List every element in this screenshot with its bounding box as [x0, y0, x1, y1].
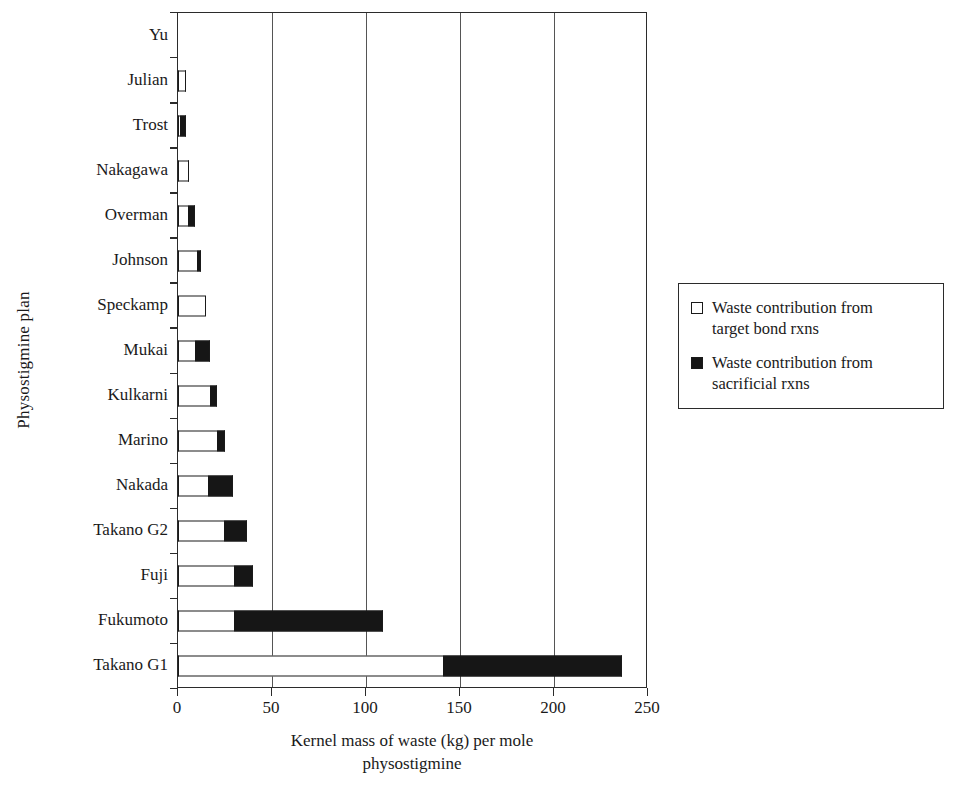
legend-label-line-2: sacrificial rxns — [712, 373, 873, 394]
stacked-bar — [178, 160, 189, 181]
y-tick-label: Marino — [0, 430, 168, 450]
bar-row — [178, 103, 646, 148]
x-tick-label: 0 — [147, 698, 207, 718]
plot-area — [177, 12, 647, 688]
x-axis-title: Kernel mass of waste (kg) per mole physo… — [177, 730, 647, 776]
bar-segment-target-bond — [178, 205, 188, 226]
legend-item: Waste contribution fromsacrificial rxns — [691, 352, 933, 394]
legend-label: Waste contribution fromtarget bond rxns — [712, 297, 873, 339]
stacked-bar — [178, 386, 217, 407]
y-tick-label: Trost — [0, 115, 168, 135]
y-tick-label: Julian — [0, 70, 168, 90]
x-tick-label: 50 — [241, 698, 301, 718]
y-tick-label: Speckamp — [0, 295, 168, 315]
bar-segment-target-bond — [178, 295, 206, 316]
x-tick-label: 100 — [335, 698, 395, 718]
legend-swatch-hollow-icon — [691, 302, 703, 314]
bar-row — [178, 419, 646, 464]
y-tick-label: Mukai — [0, 340, 168, 360]
x-tick-mark — [553, 688, 554, 696]
chart-figure: Physostigmine plan YuJulianTrostNakagawa… — [0, 0, 960, 799]
stacked-bar — [178, 70, 186, 91]
stacked-bar — [178, 340, 210, 361]
x-tick-label: 150 — [429, 698, 489, 718]
x-tick-mark — [271, 688, 272, 696]
stacked-bar — [178, 115, 186, 136]
bar-segment-target-bond — [178, 566, 234, 587]
x-axis-title-line-1: Kernel mass of waste (kg) per mole — [177, 730, 647, 753]
bar-segment-sacrificial — [197, 250, 201, 271]
bar-segment-target-bond — [178, 431, 217, 452]
bar-segment-sacrificial — [188, 160, 189, 181]
legend-label-line-1: Waste contribution from — [712, 297, 873, 318]
y-tick-label: Fukumoto — [0, 610, 168, 630]
bar-segment-target-bond — [178, 656, 443, 677]
stacked-bar — [178, 611, 383, 632]
x-tick-mark — [365, 688, 366, 696]
bar-row — [178, 148, 646, 193]
legend-swatch-filled-icon — [691, 357, 703, 369]
stacked-bar — [178, 521, 247, 542]
bar-segment-sacrificial — [234, 611, 383, 632]
stacked-bar — [178, 205, 195, 226]
bar-row — [178, 328, 646, 373]
bar-segment-sacrificial — [188, 205, 195, 226]
y-tick-label: Overman — [0, 205, 168, 225]
x-axis-title-line-2: physostigmine — [177, 753, 647, 776]
stacked-bar — [178, 566, 253, 587]
y-tick-label: Nakagawa — [0, 160, 168, 180]
bar-segment-sacrificial — [195, 340, 210, 361]
stacked-bar — [178, 656, 622, 677]
stacked-bar — [178, 250, 201, 271]
y-tick-label: Takano G2 — [0, 520, 168, 540]
bar-row — [178, 13, 646, 58]
bar-row — [178, 644, 646, 689]
bar-segment-target-bond — [178, 160, 188, 181]
bar-segment-sacrificial — [224, 521, 247, 542]
bar-segment-target-bond — [178, 611, 234, 632]
bar-row — [178, 554, 646, 599]
bar-row — [178, 509, 646, 554]
bar-row — [178, 374, 646, 419]
bar-row — [178, 193, 646, 238]
bar-segment-target-bond — [178, 250, 197, 271]
stacked-bar — [178, 476, 233, 497]
x-tick-mark — [647, 688, 648, 696]
bar-segment-target-bond — [178, 521, 224, 542]
bars-container — [178, 13, 646, 687]
bar-segment-target-bond — [178, 340, 195, 361]
y-tick-label: Nakada — [0, 475, 168, 495]
bar-row — [178, 599, 646, 644]
legend-item: Waste contribution fromtarget bond rxns — [691, 297, 933, 339]
x-tick-mark — [177, 688, 178, 696]
x-tick-mark — [459, 688, 460, 696]
bar-row — [178, 464, 646, 509]
bar-segment-target-bond — [178, 70, 185, 91]
bar-segment-sacrificial — [443, 656, 622, 677]
stacked-bar — [178, 431, 225, 452]
bar-segment-target-bond — [178, 476, 208, 497]
bar-segment-sacrificial — [210, 386, 218, 407]
bar-segment-target-bond — [178, 386, 210, 407]
bar-row — [178, 283, 646, 328]
bar-row — [178, 238, 646, 283]
legend-label: Waste contribution fromsacrificial rxns — [712, 352, 873, 394]
y-tick-label: Fuji — [0, 565, 168, 585]
legend-label-line-1: Waste contribution from — [712, 352, 873, 373]
legend: Waste contribution fromtarget bond rxnsW… — [678, 283, 944, 409]
bar-segment-sacrificial — [234, 566, 253, 587]
y-tick-label: Takano G1 — [0, 655, 168, 675]
legend-label-line-2: target bond rxns — [712, 318, 873, 339]
x-tick-label: 200 — [523, 698, 583, 718]
stacked-bar — [178, 295, 206, 316]
x-tick-label: 250 — [617, 698, 677, 718]
y-tick-label: Yu — [0, 25, 168, 45]
y-tick-label: Johnson — [0, 250, 168, 270]
bar-segment-sacrificial — [208, 476, 232, 497]
y-tick-label: Kulkarni — [0, 385, 168, 405]
bar-segment-sacrificial — [180, 115, 186, 136]
bar-segment-sacrificial — [217, 431, 225, 452]
bar-segment-sacrificial — [185, 70, 187, 91]
bar-row — [178, 58, 646, 103]
